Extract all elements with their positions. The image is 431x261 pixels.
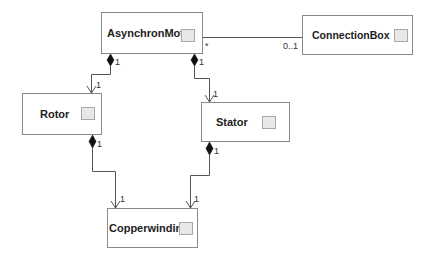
- class-copperwinding[interactable]: Copperwinding: [107, 208, 198, 248]
- multiplicity-label: 1: [115, 57, 120, 67]
- multiplicity-label: 1: [97, 139, 102, 149]
- class-stator[interactable]: Stator: [201, 102, 290, 142]
- class-name: Rotor: [40, 108, 69, 120]
- class-icon: [394, 29, 408, 42]
- multiplicity-label: 1: [194, 194, 199, 204]
- class-icon: [81, 107, 95, 120]
- class-icon: [181, 29, 195, 42]
- class-name: Stator: [216, 116, 248, 128]
- class-rotor[interactable]: Rotor: [22, 93, 102, 135]
- multiplicity-label: 1: [120, 194, 125, 204]
- multiplicity-label: *: [205, 41, 209, 51]
- multiplicity-label: 1: [96, 80, 101, 90]
- multiplicity-label: 1: [214, 146, 219, 156]
- multiplicity-label: 0..1: [283, 41, 298, 51]
- class-asynchronmotor[interactable]: AsynchronMotor: [101, 12, 203, 54]
- multiplicity-label: 1: [213, 89, 218, 99]
- composition-diamond-icon: [191, 54, 198, 66]
- class-icon: [262, 116, 276, 129]
- composition-diamond-icon: [107, 54, 114, 66]
- class-connectionbox[interactable]: ConnectionBox: [302, 15, 413, 55]
- class-icon: [179, 222, 193, 235]
- composition-line-motor-stator: [195, 66, 210, 102]
- class-name: ConnectionBox: [312, 29, 390, 41]
- class-name: Copperwinding: [109, 222, 189, 234]
- composition-line-rotor-copper: [93, 148, 116, 208]
- composition-diamond-icon: [206, 142, 213, 155]
- multiplicity-label: 1: [199, 57, 204, 67]
- composition-diamond-icon: [89, 135, 96, 148]
